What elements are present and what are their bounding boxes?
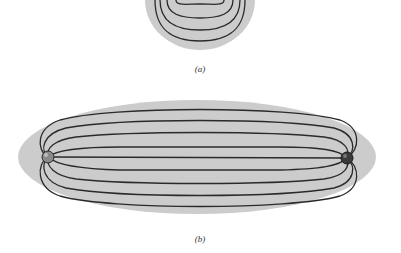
caption-a: (a): [180, 64, 220, 74]
field-lines-figure: [0, 0, 401, 253]
left-charge-highlight: [44, 153, 48, 157]
left-charge: [42, 151, 54, 163]
part-b-diagram: [18, 100, 376, 214]
right-charge-highlight: [343, 154, 347, 158]
part-a-diagram: [145, 0, 255, 50]
right-charge: [341, 152, 353, 164]
caption-b: (b): [180, 234, 220, 244]
